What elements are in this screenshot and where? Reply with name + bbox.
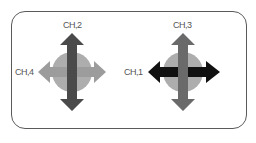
label-ch3: CH,3 — [173, 20, 192, 30]
label-ch2: CH,2 — [63, 20, 82, 30]
label-ch4: CH,4 — [15, 67, 34, 77]
left-stick-group — [38, 33, 106, 111]
right-stick-group — [148, 33, 220, 111]
label-ch1: CH,1 — [124, 67, 143, 77]
